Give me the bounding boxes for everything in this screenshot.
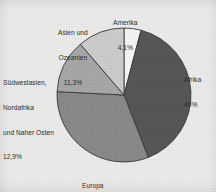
pie-label-europa: Europa 31,7% xyxy=(82,166,104,192)
pie-label-amerika-value: 4,1% xyxy=(113,44,138,52)
pie-label-europa-name: Europa xyxy=(82,182,104,190)
pie-label-suedwestasien-name-line3: und Naher Osten xyxy=(3,129,54,137)
pie-label-afrika-value: 40% xyxy=(184,101,201,109)
pie-label-asien-ozeanien-name-line1: Asien und xyxy=(58,29,88,37)
pie-label-suedwestasien-name-line2: Nordafrika xyxy=(3,104,54,112)
pie-label-suedwestasien-name-line1: Südwestasien, xyxy=(3,79,54,87)
pie-label-afrika: Afrika 40% xyxy=(184,60,201,126)
pie-label-suedwestasien-value: 12,9% xyxy=(3,153,54,161)
pie-label-asien-ozeanien-name-line2: Ozeanien xyxy=(58,54,88,62)
pie-label-afrika-name: Afrika xyxy=(184,76,201,84)
pie-label-amerika: Amerika 4,1% xyxy=(113,3,138,69)
pie-label-asien-ozeanien-value: 11,3% xyxy=(58,79,88,87)
pie-label-asien-ozeanien: Asien und Ozeanien 11,3% xyxy=(58,13,88,103)
pie-chart: Amerika 4,1% Asien und Ozeanien 11,3% Sü… xyxy=(0,0,216,192)
pie-label-suedwestasien: Südwestasien, Nordafrika und Naher Osten… xyxy=(3,63,54,178)
pie-label-amerika-name: Amerika xyxy=(113,19,138,27)
